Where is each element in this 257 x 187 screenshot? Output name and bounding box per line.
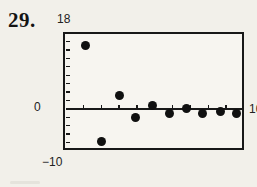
y-axis-tick <box>66 142 70 143</box>
data-point <box>115 91 124 100</box>
y-axis-tick <box>66 41 70 42</box>
data-point <box>97 137 106 146</box>
data-point <box>216 107 225 116</box>
y-axis-tick <box>66 66 70 67</box>
data-point <box>232 109 241 118</box>
x-axis-tick <box>83 105 84 109</box>
y-axis-tick <box>66 83 70 84</box>
x-axis-tick <box>136 105 137 109</box>
y-axis-tick <box>66 117 70 118</box>
y-axis-tick <box>66 58 70 59</box>
y-axis-tick <box>66 49 70 50</box>
y-axis-tick <box>66 75 70 76</box>
scan-smudge-artifact <box>10 181 40 184</box>
x-axis-tick <box>208 105 209 109</box>
x-axis-tick <box>225 105 226 109</box>
y-axis-tick <box>66 125 70 126</box>
data-point <box>198 109 207 118</box>
chart-layer <box>0 0 257 187</box>
data-point <box>165 109 174 118</box>
data-point <box>131 113 140 122</box>
x-axis-tick <box>118 105 119 109</box>
y-axis-tick <box>66 91 70 92</box>
y-axis-tick <box>66 133 70 134</box>
data-point <box>182 104 191 113</box>
x-axis-tick <box>101 105 102 109</box>
textbook-page-scan: 29. 18 0 −10 10 <box>0 0 257 187</box>
x-axis-tick <box>172 105 173 109</box>
data-point <box>81 41 90 50</box>
y-axis-tick <box>66 100 70 101</box>
